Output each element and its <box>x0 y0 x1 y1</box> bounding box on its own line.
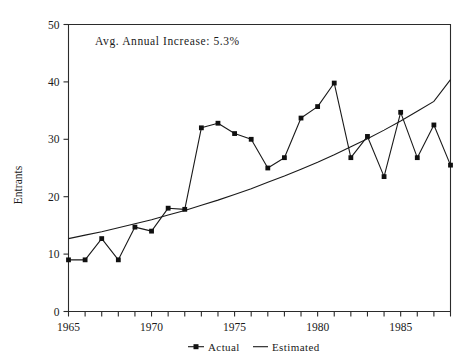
chart-svg: 01020304050 19651970197519801985 Entrant… <box>0 0 475 363</box>
y-axis-title: Entrants <box>12 165 24 204</box>
data-point-1982 <box>348 155 353 160</box>
data-point-1970 <box>149 229 154 234</box>
data-point-1968 <box>116 257 121 262</box>
data-point-1983 <box>365 134 370 139</box>
data-point-1966 <box>83 257 88 262</box>
x-tick-label-1965: 1965 <box>57 321 80 333</box>
x-tick-label-1975: 1975 <box>223 321 246 333</box>
annotation-avg-annual-increase: Avg. Annual Increase: 5.3% <box>95 35 240 48</box>
legend-label-estimated: Estimated <box>272 341 320 353</box>
data-point-1974 <box>216 121 221 126</box>
data-point-1985 <box>398 110 403 115</box>
data-point-1978 <box>282 155 287 160</box>
y-tick-label-10: 10 <box>48 248 60 260</box>
data-point-1971 <box>166 206 171 211</box>
data-point-1967 <box>99 236 104 241</box>
data-point-1981 <box>332 81 337 86</box>
legend-label-actual: Actual <box>208 341 240 353</box>
y-tick-label-0: 0 <box>54 306 60 318</box>
data-point-1987 <box>431 123 436 128</box>
data-point-1980 <box>315 104 320 109</box>
data-point-1976 <box>249 137 254 142</box>
data-point-1969 <box>133 225 138 230</box>
data-point-1988 <box>448 163 453 168</box>
data-point-1986 <box>415 155 420 160</box>
chart-figure: 01020304050 19651970197519801985 Entrant… <box>0 0 475 363</box>
data-point-1984 <box>382 174 387 179</box>
data-point-1975 <box>232 131 237 136</box>
y-tick-label-30: 30 <box>48 133 60 145</box>
chart-background <box>0 0 475 363</box>
y-tick-label-40: 40 <box>48 76 60 88</box>
data-point-1973 <box>199 125 204 130</box>
data-point-1965 <box>66 257 71 262</box>
x-tick-label-1980: 1980 <box>306 321 329 333</box>
data-point-1977 <box>265 166 270 171</box>
data-point-1972 <box>182 207 187 212</box>
y-tick-label-20: 20 <box>48 191 60 203</box>
x-tick-label-1985: 1985 <box>389 321 412 333</box>
x-tick-label-1970: 1970 <box>140 321 163 333</box>
y-tick-label-50: 50 <box>48 19 60 31</box>
data-point-1979 <box>299 116 304 121</box>
